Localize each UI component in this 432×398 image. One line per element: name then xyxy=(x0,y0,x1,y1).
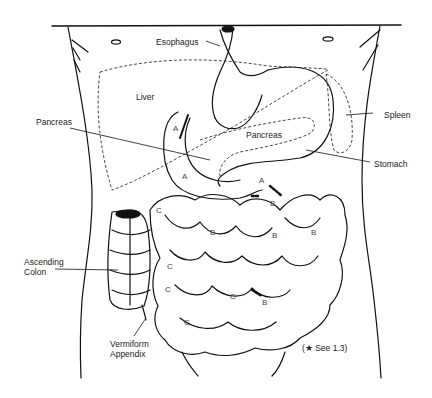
spleen-outline xyxy=(326,74,352,153)
label-ascending-colon: Ascending Colon xyxy=(24,257,64,277)
torso-left-side xyxy=(68,27,92,378)
segment-marker-b: B xyxy=(210,228,215,237)
duodenum xyxy=(164,112,262,199)
label-stomach: Stomach xyxy=(374,159,408,169)
label-pancreas: Pancreas xyxy=(36,117,72,127)
segment-marker-b: B xyxy=(311,228,316,237)
label-liver: Liver xyxy=(136,92,154,102)
label-vermiform-appendix: Vermiform Appendix xyxy=(110,339,149,359)
label-esophagus: Esophagus xyxy=(156,37,199,47)
liver-outline xyxy=(98,60,328,190)
segment-marker-c: C xyxy=(167,262,173,271)
torso-right-side xyxy=(362,26,381,378)
segment-marker-c: C xyxy=(230,292,236,301)
segment-marker-c: C xyxy=(184,318,190,327)
segment-marker-c: C xyxy=(165,285,171,294)
anatomy-diagram: Esophagus Liver Pancreas Pancreas Spleen… xyxy=(0,0,432,398)
segment-marker-b: B xyxy=(270,199,275,208)
footnote-see-1-3: (★ See 1.3) xyxy=(302,343,347,353)
small-intestine xyxy=(150,195,347,356)
segment-marker-a: A xyxy=(173,124,178,133)
segment-marker-c: C xyxy=(156,206,162,215)
segment-marker-a: A xyxy=(259,176,264,185)
pancreas-outline xyxy=(200,118,314,176)
esophagus xyxy=(212,28,268,118)
segment-marker-a: A xyxy=(182,172,187,181)
segment-marker-b: B xyxy=(272,231,277,240)
label-pancreas-inner: Pancreas xyxy=(246,130,282,140)
segment-marker-b: B xyxy=(262,298,267,307)
appendix xyxy=(142,305,146,320)
anatomy-drawing xyxy=(0,0,432,398)
label-spleen: Spleen xyxy=(384,110,410,120)
